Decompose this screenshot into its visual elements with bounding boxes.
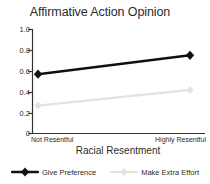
series-marker-dark-left [34, 70, 42, 79]
legend-entry-make-extra-effort[interactable]: Make Extra Effort [110, 167, 199, 177]
legend-marker-light-icon [110, 167, 138, 177]
chart-container: Affirmative Action Opinion [0, 0, 210, 184]
series-marker-light-right [186, 86, 193, 94]
y-tick-label-1-0: 1.0 [8, 25, 30, 34]
series-marker-dark-right [186, 51, 194, 60]
legend-marker-dark-icon [11, 167, 39, 177]
y-tick-label-0-2: 0.2 [8, 109, 30, 118]
chart-legend: Give Preference Make Extra Effort [0, 163, 210, 181]
series-marker-light-left [34, 102, 41, 110]
y-tick-label-0-4: 0.4 [8, 88, 30, 97]
x-tick-label-highly-resentful: Highly Resentful [155, 136, 206, 143]
y-tick-label-0-8: 0.8 [8, 46, 30, 55]
series-line-light [38, 90, 190, 106]
legend-label-make-extra-effort: Make Extra Effort [141, 168, 199, 177]
plot-area [0, 0, 210, 184]
y-axis-tick-labels: 1.0 0.8 0.6 0.4 0.2 0 [8, 0, 30, 184]
legend-entry-give-preference[interactable]: Give Preference [11, 167, 96, 177]
series-make-extra-effort [34, 86, 193, 110]
x-axis-title: Racial Resentment [30, 145, 206, 156]
x-tick-label-not-resentful: Not Resentful [31, 136, 73, 143]
y-tick-label-0-6: 0.6 [8, 67, 30, 76]
y-tick-label-0: 0 [8, 129, 30, 138]
legend-label-give-preference: Give Preference [42, 168, 96, 177]
series-line-dark [38, 55, 190, 74]
series-give-preference [34, 51, 194, 79]
